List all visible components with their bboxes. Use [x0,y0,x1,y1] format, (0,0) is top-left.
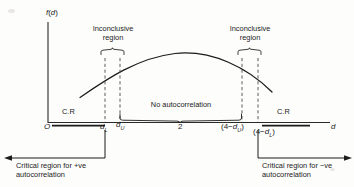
tick-4dU-suffix: ) [241,122,244,131]
inconclusive-right-line2: region [214,34,286,43]
tick-label-dU: dU [116,120,124,131]
caption-positive-autocorrelation: Critical region for +ve autocorrelation [16,162,86,179]
origin-label: O [44,122,50,131]
scan-speck [8,9,15,13]
distribution-curve [80,53,272,98]
tick-dU-sub: U [120,125,124,131]
durbin-watson-figure: f(d) d O Inconclusive region Inconclusiv… [0,0,354,187]
inconclusive-region-left-label: Inconclusive region [77,25,149,42]
critical-region-left-label: C.R [62,108,75,117]
tick-4dL-suffix: ) [272,127,275,136]
tick-dL-sub: L [104,127,107,133]
tick-label-dL: dL [100,122,107,133]
caption-negative-autocorrelation: Critical region for −ve autocorrelation [262,162,332,179]
inconclusive-left-line2: region [77,34,149,43]
y-axis-label-close: ) [55,8,58,17]
brace-inconclusive-right [238,48,261,55]
tick-4dL-prefix: (4− [253,127,265,136]
no-autocorrelation-label: No autocorrelation [130,101,232,110]
left-caption-arrowhead [4,155,12,161]
caption-left-line2: autocorrelation [16,171,86,180]
caption-right-line2: autocorrelation [262,171,332,180]
inconclusive-region-right-label: Inconclusive region [214,25,286,42]
tick-label-two: 2 [178,122,182,131]
scan-speck [330,168,335,171]
tick-4dU-prefix: (4− [221,122,233,131]
right-caption-arrowhead [344,155,352,161]
tick-label-4-minus-dU: (4−dU) [221,122,244,133]
brace-inconclusive-left [101,48,124,55]
y-axis-label: f(d) [46,8,58,17]
x-axis-label: d [331,122,335,131]
critical-region-right-label: C.R [277,108,290,117]
tick-label-4-minus-dL: (4−dL) [253,127,275,138]
figure-drawing [0,0,354,187]
